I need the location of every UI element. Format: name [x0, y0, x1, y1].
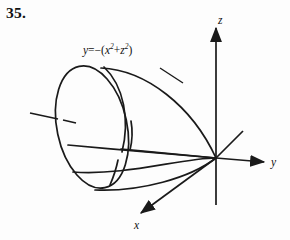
x-axis-label: x — [134, 219, 139, 231]
y-axis-positive-segment — [216, 158, 264, 162]
y-axis-negative-segment-inner — [63, 120, 76, 123]
equation-close-paren: ) — [129, 44, 133, 56]
z-axis-label: z — [218, 14, 222, 26]
equation-leader-stroke — [160, 68, 183, 83]
paraboloid-surface-group — [45, 59, 216, 195]
figure-container: 35. — [0, 0, 290, 240]
x-axis-negative-segment — [216, 131, 243, 158]
paraboloid-ruling-line-back — [121, 149, 216, 158]
y-axis-negative-segment-left — [30, 113, 58, 119]
equation-leader-line — [160, 68, 183, 83]
paraboloid-lower-silhouette — [95, 158, 216, 190]
paraboloid-figure-svg — [0, 0, 290, 240]
surface-equation-label: y=−(x2+z2) — [83, 44, 132, 56]
paraboloid-upper-silhouette — [101, 68, 216, 158]
y-axis-label: y — [271, 156, 276, 168]
equation-sign-open: −( — [95, 44, 105, 56]
paraboloid-interior-stroke-upper — [130, 121, 132, 150]
